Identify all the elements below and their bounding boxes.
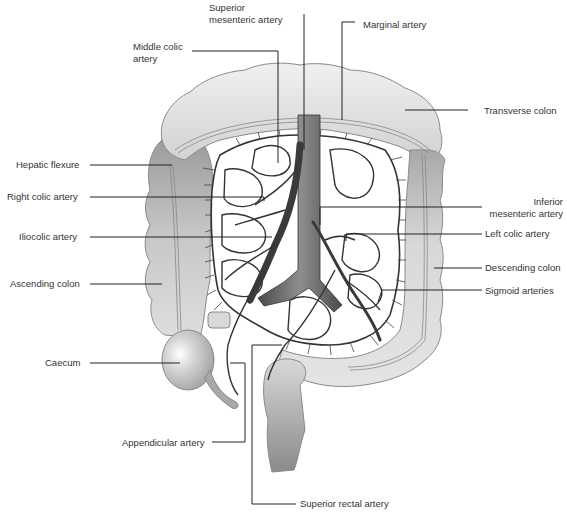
label-descending-colon: Descending colon <box>485 262 561 274</box>
label-right-colic-artery: Right colic artery <box>7 191 78 203</box>
label-appendicular-artery: Appendicular artery <box>122 437 204 449</box>
label-transverse-colon: Transverse colon <box>484 105 557 117</box>
label-hepatic-flexure: Hepatic flexure <box>16 159 79 171</box>
colon-anatomy-diagram <box>0 0 567 516</box>
label-line: artery <box>133 53 183 65</box>
label-sigmoid-arteries: Sigmoid arteries <box>485 285 554 297</box>
terminal-ileum-shape <box>208 312 230 328</box>
label-superior-mesenteric-artery: Superior mesenteric artery <box>209 2 282 26</box>
label-ascending-colon: Ascending colon <box>10 278 80 290</box>
appendix-shape <box>205 370 238 408</box>
label-iliocolic-artery: Iliocolic artery <box>19 231 77 243</box>
label-inferior-mesenteric-artery: Inferior mesenteric artery <box>490 196 563 220</box>
label-line: mesenteric artery <box>490 208 563 220</box>
ascending-colon-shape <box>145 140 212 338</box>
label-line: Superior <box>209 2 282 14</box>
label-superior-rectal-artery: Superior rectal artery <box>300 498 389 510</box>
label-line: Inferior <box>490 196 563 208</box>
sigmoid-colon-shape <box>264 359 306 472</box>
label-caecum: Caecum <box>45 357 80 369</box>
label-left-colic-artery: Left colic artery <box>485 228 549 240</box>
label-line: mesenteric artery <box>209 14 282 26</box>
label-marginal-artery: Marginal artery <box>363 19 426 31</box>
label-line: Middle colic <box>133 41 183 53</box>
label-middle-colic-artery: Middle colic artery <box>133 41 183 65</box>
